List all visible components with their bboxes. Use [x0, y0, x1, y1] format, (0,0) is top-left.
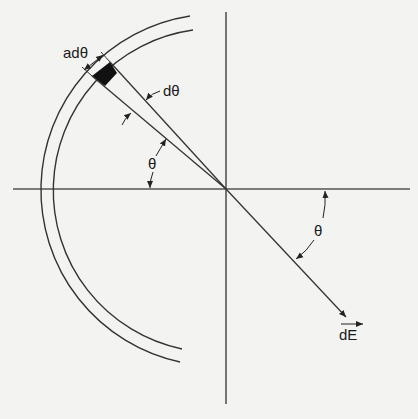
- adtheta-arrow-1: [93, 55, 103, 63]
- diagram-canvas: adθ dθ θ θ dE: [0, 0, 418, 419]
- label-theta-right: θ: [314, 223, 322, 238]
- radial-line-lower: [92, 76, 226, 189]
- label-field-vector: dE: [339, 327, 357, 342]
- field-vector-arrow: [226, 189, 346, 317]
- diagram-svg: [0, 0, 418, 419]
- theta-left-arc-up: [156, 139, 166, 156]
- label-dtheta: dθ: [163, 83, 180, 98]
- label-theta-left: θ: [148, 156, 156, 171]
- theta-right-arc-up: [323, 191, 325, 218]
- theta-left-arc-down: [150, 172, 153, 188]
- label-arc-element: adθ: [63, 45, 88, 60]
- theta-right-arc-down: [296, 240, 314, 259]
- dtheta-arrow-upper: [146, 91, 160, 100]
- dtheta-arrow-lower: [122, 113, 131, 125]
